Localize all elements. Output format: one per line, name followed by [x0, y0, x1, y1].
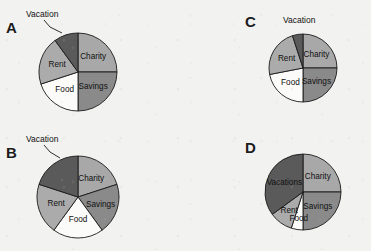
pie-chart-a: CharitySavingsFoodRent: [39, 33, 117, 111]
slice-label-b-food: Food: [69, 215, 88, 224]
vacation-leader-line-b: [44, 145, 60, 158]
slice-label-d-food: Food: [289, 214, 308, 223]
panel-letter-d: D: [245, 140, 256, 155]
slice-label-c-savings: Savings: [302, 77, 331, 86]
pie-slice-a-savings: [78, 72, 117, 111]
pie-chart-d: CharitySavingsFoodRentVacations: [265, 154, 341, 230]
slice-label-a-food: Food: [55, 85, 74, 94]
slice-label-c-food: Food: [281, 78, 300, 87]
vacation-callout-label-a: Vacation: [26, 10, 58, 19]
slice-label-d-rent: Rent: [281, 206, 299, 215]
pie-chart-c: CharitySavingsFoodRent: [269, 34, 337, 102]
slice-label-a-rent: Rent: [49, 60, 67, 69]
vacation-leader-line-a: [44, 20, 62, 33]
slice-label-d-vacations: Vacations: [267, 178, 302, 187]
panel-letter-a: A: [6, 20, 17, 35]
pie-slice-d-savings: [303, 192, 341, 230]
pie-charts-svg: CharitySavingsFoodRentCharitySavingsFood…: [0, 0, 371, 251]
slice-label-a-savings: Savings: [79, 82, 108, 91]
slice-label-d-savings: Savings: [303, 202, 332, 211]
panel-letter-c: C: [245, 14, 256, 29]
panel-letter-b: B: [6, 145, 17, 160]
pie-chart-b: CharitySavingsFoodRent: [37, 156, 119, 238]
slice-label-c-charity: Charity: [303, 50, 330, 59]
vacation-callout-label-c: Vacation: [283, 16, 315, 25]
slice-label-b-savings: Savings: [86, 200, 115, 209]
slice-label-d-charity: Charity: [305, 172, 332, 181]
slice-label-c-rent: Rent: [278, 54, 296, 63]
slice-label-a-charity: Charity: [80, 52, 107, 61]
slice-label-b-rent: Rent: [48, 199, 66, 208]
slice-label-b-charity: Charity: [78, 174, 105, 183]
vacation-callout-label-b: Vacation: [26, 135, 58, 144]
pie-chart-figure: CharitySavingsFoodRentCharitySavingsFood…: [0, 0, 371, 251]
